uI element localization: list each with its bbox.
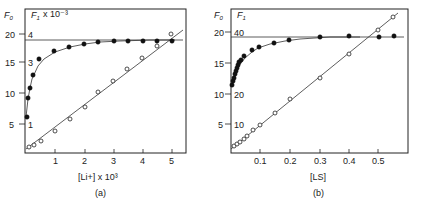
panel-b-ytick-10: 10 xyxy=(214,90,224,100)
panel-a-ytick-5: 5 xyxy=(9,120,14,130)
panel-a-ytick-r-1: 1 xyxy=(28,120,33,130)
panel-b-ytick-r-10: 10 xyxy=(234,120,244,130)
panel-a-ytick-15: 15 xyxy=(5,58,15,68)
panel-b-ytick-r-20: 20 xyxy=(234,90,244,100)
panel-b-x-label: [LS] xyxy=(310,172,326,182)
panel-a-filled-points xyxy=(25,39,174,119)
panel-b: F0 F1 20 40 15 10 20 5 10 0.1 0.2 0.3 0.… xyxy=(214,9,408,198)
panel-a-y-title-left: F0 xyxy=(4,10,14,21)
panel-b-ytick-r-40: 40 xyxy=(234,28,244,38)
svg-text:0.5: 0.5 xyxy=(372,156,385,166)
svg-text:0.2: 0.2 xyxy=(284,156,297,166)
svg-text:1: 1 xyxy=(53,156,58,166)
panel-b-ytick-5: 5 xyxy=(218,120,223,130)
panel-b-x-ticks: 0.1 0.2 0.3 0.4 0.5 xyxy=(254,149,385,166)
panel-b-y-title-right: F1 xyxy=(237,10,246,21)
panel-a-x-ticks: 1 2 3 4 5 xyxy=(53,149,174,166)
panel-a-label: (a) xyxy=(95,188,106,198)
svg-text:3: 3 xyxy=(111,156,116,166)
panel-b-saturation-curve xyxy=(232,37,360,86)
panel-b-label: (b) xyxy=(313,188,324,198)
svg-text:5: 5 xyxy=(169,156,174,166)
figure: F0 F1 x 10⁻³ 20 4 15 3 10 5 1 1 2 3 4 5 … xyxy=(0,0,421,200)
svg-text:0.4: 0.4 xyxy=(343,156,356,166)
panel-a-saturation-curve xyxy=(26,40,175,117)
panel-b-ytick-15: 15 xyxy=(214,59,224,69)
panel-b-y-title-left: F0 xyxy=(214,10,224,21)
panel-a-y-title-right-suffix: x 10⁻³ xyxy=(43,9,68,19)
svg-text:2: 2 xyxy=(82,156,87,166)
svg-text:0.1: 0.1 xyxy=(254,156,267,166)
svg-text:0.3: 0.3 xyxy=(314,156,327,166)
panel-a: F0 F1 x 10⁻³ 20 4 15 3 10 5 1 1 2 3 4 5 … xyxy=(4,9,186,198)
panel-a-ytick-r-4: 4 xyxy=(28,30,33,40)
panel-b-ytick-20: 20 xyxy=(214,28,224,38)
panel-a-ytick-10: 10 xyxy=(5,89,15,99)
panel-a-y-title-right: F1 xyxy=(31,10,40,21)
panel-b-plot-frame xyxy=(231,9,408,153)
panel-b-linear-fit xyxy=(231,13,398,149)
svg-text:4: 4 xyxy=(140,156,145,166)
panel-a-linear-fit xyxy=(26,30,183,149)
panel-a-ytick-r-3: 3 xyxy=(28,58,33,68)
panel-b-filled-points xyxy=(230,34,396,87)
panel-a-ytick-20: 20 xyxy=(5,30,15,40)
panel-a-x-label: [Li+] x 10³ xyxy=(78,172,118,182)
